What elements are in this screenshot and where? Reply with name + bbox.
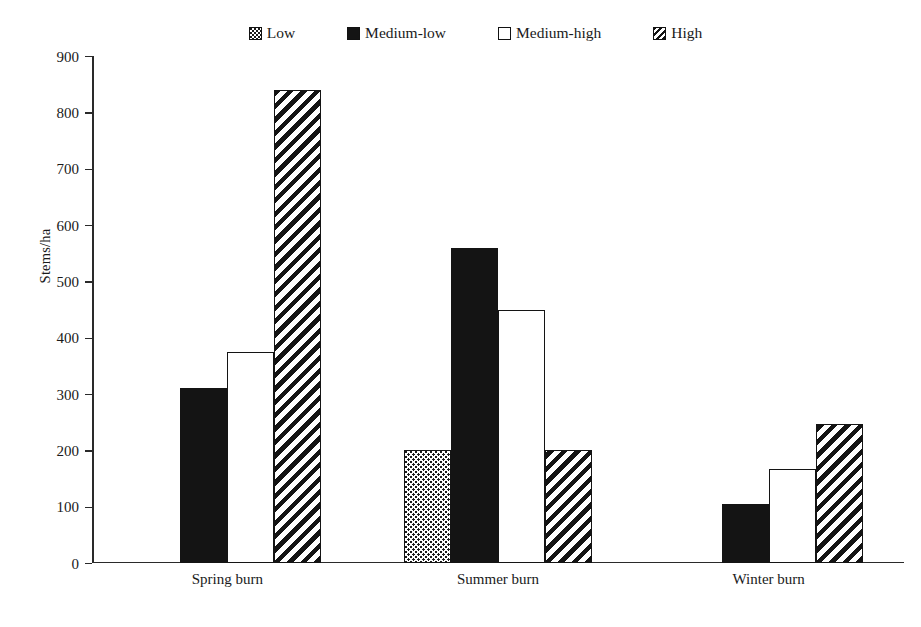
bar-group [363,56,634,563]
y-axis-tick: 600 [85,225,92,226]
legend-item-medium-high[interactable]: Medium-high [498,25,601,41]
bar-high[interactable] [816,424,863,563]
bar-medium-low[interactable] [180,388,227,563]
bar-group-bars [633,56,904,563]
bar-low[interactable] [404,450,451,563]
bar-medium-high[interactable] [227,352,274,563]
y-axis-tick-label: 200 [57,443,80,458]
y-axis-tick: 100 [85,507,92,508]
x-axis-label: Winter burn [633,572,904,587]
y-axis-tick: 900 [85,56,92,57]
legend-label-low: Low [267,25,295,41]
bar-high[interactable] [545,450,592,563]
bar-chart: Low Medium-low Medium-high High Stems/ha… [0,0,921,627]
bar-medium-low[interactable] [722,504,769,563]
x-axis-labels: Spring burnSummer burnWinter burn [92,572,904,587]
legend-label-medium-high: Medium-high [516,25,601,41]
chart-legend: Low Medium-low Medium-high High [0,20,921,46]
bar-group [633,56,904,563]
legend-swatch-high-icon [653,27,666,40]
y-axis-tick: 800 [85,112,92,113]
y-axis-tick: 500 [85,281,92,282]
legend-item-medium-low[interactable]: Medium-low [347,25,446,41]
y-axis-tick: 400 [85,338,92,339]
legend-swatch-low-icon [249,27,262,40]
y-axis-tick-label: 300 [57,387,80,402]
legend-label-medium-low: Medium-low [365,25,446,41]
legend-swatch-medium-low-icon [347,27,360,40]
y-axis-title: Stems/ha [37,229,54,284]
y-axis-tick-label: 600 [57,218,80,233]
bar-groups [92,56,904,563]
plot-area: 9008007006005004003002001000 [92,56,904,563]
legend-item-low[interactable]: Low [249,25,295,41]
bar-medium-low[interactable] [451,248,498,563]
y-axis-tick-label: 0 [72,556,80,571]
legend-item-high[interactable]: High [653,25,702,41]
bar-group-bars [92,56,363,563]
bar-group [92,56,363,563]
bar-medium-high[interactable] [769,469,816,563]
legend-swatch-medium-high-icon [498,27,511,40]
y-axis-tick-label: 800 [57,105,80,120]
bar-medium-high[interactable] [498,310,545,564]
y-axis-tick-label: 400 [57,331,80,346]
y-axis-tick: 300 [85,394,92,395]
bar-high[interactable] [274,90,321,563]
y-axis-tick: 200 [85,450,92,451]
x-axis-label: Spring burn [92,572,363,587]
x-axis-label: Summer burn [363,572,634,587]
y-axis-tick: 700 [85,169,92,170]
y-axis-tick-label: 100 [57,500,80,515]
y-axis-tick-label: 700 [57,162,80,177]
y-axis-tick: 0 [85,563,92,564]
y-axis-tick-label: 500 [57,274,80,289]
bar-group-bars [363,56,634,563]
y-axis-tick-label: 900 [57,49,80,64]
legend-label-high: High [671,25,702,41]
